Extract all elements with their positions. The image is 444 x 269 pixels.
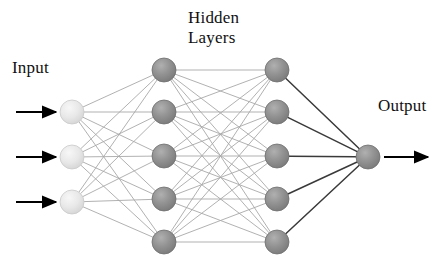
- node-hidden1-0: [152, 58, 176, 82]
- node-input-0: [60, 100, 84, 124]
- connection-hidden2-3-output-0: [288, 162, 357, 194]
- neural-network-diagram: Input HiddenLayers Output: [0, 0, 444, 269]
- hidden-layers-label-line2: Layers: [188, 28, 239, 48]
- connection-hidden2-1-output-0: [288, 117, 357, 151]
- node-hidden2-3: [265, 187, 289, 211]
- connection-hidden2-2-output-0: [289, 156, 356, 157]
- connection-input-0-hidden1-3: [81, 120, 156, 191]
- connection-input-0-hidden1-4: [79, 122, 157, 232]
- node-hidden2-0: [265, 58, 289, 82]
- node-hidden2-1: [265, 100, 289, 124]
- hidden-layers-label-line1: Hidden: [188, 8, 239, 28]
- node-hidden1-4: [152, 230, 176, 254]
- output-label: Output: [378, 96, 426, 116]
- connections-group: [79, 70, 359, 242]
- node-input-2: [60, 190, 84, 214]
- connection-input-2-hidden1-0: [79, 80, 157, 192]
- hidden-layers-label: HiddenLayers: [188, 8, 239, 48]
- connection-hidden2-4-output-0: [286, 165, 359, 234]
- node-input-1: [60, 145, 84, 169]
- node-output-0: [356, 145, 380, 169]
- node-hidden2-2: [265, 144, 289, 168]
- input-label: Input: [12, 58, 49, 78]
- connection-input-1-hidden1-0: [81, 78, 156, 149]
- node-hidden1-3: [152, 187, 176, 211]
- connection-input-0-hidden1-0: [83, 75, 153, 107]
- node-hidden1-1: [152, 100, 176, 124]
- node-hidden1-2: [152, 144, 176, 168]
- node-hidden2-4: [265, 230, 289, 254]
- connection-hidden2-0-output-0: [286, 78, 360, 148]
